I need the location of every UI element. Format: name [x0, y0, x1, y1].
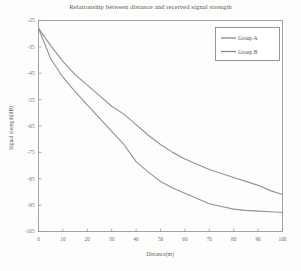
x-tick-label: 90	[256, 236, 262, 242]
chart-figure: Relationship between distance and receiv…	[0, 0, 301, 271]
y-tick-label: -105	[25, 228, 35, 234]
x-axis-title: Distance(m)	[146, 251, 174, 258]
x-tick-label: 10	[60, 236, 66, 242]
x-tick-label: 100	[279, 236, 287, 242]
y-tick-label: -65	[28, 123, 35, 129]
y-tick-label: -35	[28, 44, 35, 50]
x-axis-ticks	[39, 229, 283, 232]
y-tick-label: -85	[28, 176, 35, 182]
x-tick-label: 60	[182, 236, 188, 242]
chart-legend[interactable]: Group AGroup B	[216, 28, 280, 61]
y-axis-title: Signal strength(dB)	[8, 106, 15, 150]
x-tick-label: 30	[109, 236, 115, 242]
chart-plot-area: 0102030405060708090100 -25-35-45-55-65-7…	[0, 0, 301, 271]
x-tick-label: 20	[85, 236, 91, 242]
x-tick-label: 0	[37, 236, 40, 242]
legend-label-1: Group A	[238, 35, 257, 41]
x-axis-tick-labels: 0102030405060708090100	[37, 236, 287, 242]
x-tick-label: 40	[134, 236, 140, 242]
y-axis-tick-labels: -25-35-45-55-65-75-85-95-105	[25, 17, 35, 234]
y-axis-ticks	[39, 21, 42, 232]
y-tick-label: -95	[28, 202, 35, 208]
y-tick-label: -25	[28, 17, 35, 23]
y-tick-label: -75	[28, 149, 35, 155]
legend-box	[216, 28, 280, 61]
y-tick-label: -55	[28, 97, 35, 103]
x-tick-label: 70	[207, 236, 213, 242]
y-tick-label: -45	[28, 70, 35, 76]
legend-label-2: Group B	[238, 49, 258, 55]
x-tick-label: 80	[231, 236, 237, 242]
x-tick-label: 50	[158, 236, 164, 242]
